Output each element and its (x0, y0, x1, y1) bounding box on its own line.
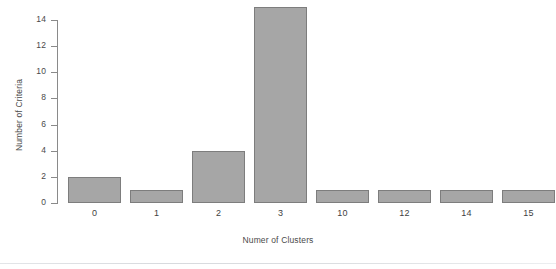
x-axis-tick-label: 10 (316, 209, 369, 218)
y-axis-tick-label: 8 (20, 93, 46, 103)
y-axis-tick-mark (51, 98, 57, 99)
y-axis-tick-label: 2 (20, 172, 46, 182)
y-axis-tick-mark (51, 72, 57, 73)
x-axis-tick-label: 2 (192, 209, 245, 218)
bar (68, 177, 121, 203)
y-axis-tick-label-text: 10 (24, 67, 46, 76)
y-axis-tick-label: 6 (20, 120, 46, 130)
y-axis-tick-label-text: 14 (24, 15, 46, 24)
x-axis-title: Numer of Clusters (0, 235, 556, 245)
bar (254, 7, 307, 203)
x-axis-tick-label: 12 (378, 209, 431, 218)
y-axis-tick-mark (51, 203, 57, 204)
y-axis-line (57, 20, 58, 204)
y-axis-tick-label: 12 (20, 41, 46, 51)
y-axis-tick-label: 4 (20, 146, 46, 156)
x-axis-tick-label: 0 (68, 209, 121, 218)
bar (130, 190, 183, 203)
y-axis-tick-mark (51, 46, 57, 47)
y-axis-tick-label: 14 (20, 15, 46, 25)
y-axis-tick-mark (51, 177, 57, 178)
x-axis-tick-label: 1 (130, 209, 183, 218)
x-axis-tick-label: 3 (254, 209, 307, 218)
plot-area: Number of Criteria 02468101214 012310121… (0, 0, 556, 269)
x-axis-tick-label: 15 (502, 209, 555, 218)
bar (440, 190, 493, 203)
y-axis-tick-label-text: 8 (24, 93, 46, 102)
y-axis-tick-mark (51, 151, 57, 152)
y-axis-tick-label: 0 (20, 198, 46, 208)
y-axis-tick-label: 10 (20, 67, 46, 77)
barplot-figure: Number of Criteria 02468101214 012310121… (0, 0, 556, 269)
bar (502, 190, 555, 203)
y-axis-tick-label-text: 0 (24, 198, 46, 207)
bar (316, 190, 369, 203)
y-axis-tick-label-text: 4 (24, 146, 46, 155)
y-axis-tick-label-text: 6 (24, 120, 46, 129)
y-axis-tick-mark (51, 20, 57, 21)
y-axis-tick-mark (51, 125, 57, 126)
y-axis-tick-label-text: 12 (24, 41, 46, 50)
y-axis-tick-label-text: 2 (24, 172, 46, 181)
x-axis-tick-label: 14 (440, 209, 493, 218)
page-rule-divider (0, 263, 556, 264)
bar (378, 190, 431, 203)
bar (192, 151, 245, 203)
